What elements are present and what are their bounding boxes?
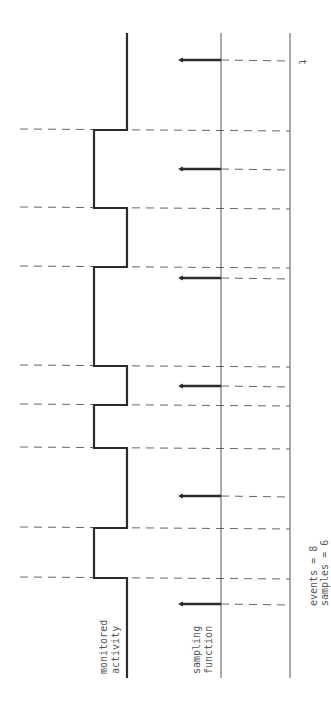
event-dashed-line <box>20 577 290 579</box>
event-dashed-line <box>20 404 290 406</box>
monitored-activity-waveform <box>94 33 127 678</box>
sample-dashed-line <box>221 169 290 170</box>
sample-dashed-line <box>221 386 290 387</box>
event-dashed-lines <box>20 129 290 579</box>
event-dashed-line <box>20 207 290 209</box>
sampling-function-label-line2: function <box>203 626 214 674</box>
sample-arrowhead-icon <box>178 602 183 607</box>
sample-dashed-line <box>221 496 290 497</box>
samples-count: samples = 6 <box>319 540 330 606</box>
sample-dashed-line <box>221 60 290 61</box>
event-dashed-line <box>20 527 290 529</box>
sample-arrowhead-icon <box>178 384 183 389</box>
monitored-activity-label-line1: monitored <box>98 620 109 674</box>
sample-markers <box>178 58 221 607</box>
sampling-function-label-line1: sampling <box>191 626 202 674</box>
events-count: events = 8 <box>308 546 319 606</box>
sample-dashed-lines <box>221 60 290 605</box>
sample-arrowhead-icon <box>178 58 183 63</box>
sample-dashed-line <box>221 278 290 279</box>
sample-arrowhead-icon <box>178 167 183 172</box>
sample-arrowhead-icon <box>178 276 183 281</box>
sample-dashed-line <box>221 604 290 605</box>
time-axis-label: t <box>297 59 308 65</box>
event-dashed-line <box>20 447 290 449</box>
event-dashed-line <box>20 266 290 268</box>
monitored-activity-label-line2: activity <box>110 626 121 674</box>
event-dashed-line <box>20 365 290 367</box>
sample-arrowhead-icon <box>178 494 183 499</box>
event-dashed-line <box>20 129 290 131</box>
sampling-diagram: t monitored activity sampling function e… <box>0 0 331 706</box>
